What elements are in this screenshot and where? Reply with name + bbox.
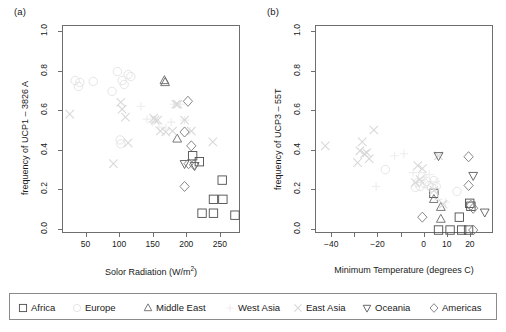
data-point-diamond (418, 212, 427, 222)
panel-b-x-axis-title: Minimum Temperature (degrees C) (305, 265, 503, 275)
data-point-cross (294, 304, 301, 311)
legend-item-label: Middle East (156, 302, 206, 313)
y-tick-label: 0.8 (39, 60, 49, 80)
legend-item-label: West Asia (238, 302, 280, 313)
panel-a-y-axis-title: frequency of UCP1 – 3826 A (20, 81, 30, 195)
x-tick-mark (119, 233, 120, 237)
x-tick-mark (331, 233, 332, 237)
data-point-square (19, 304, 26, 311)
data-point-square (198, 209, 206, 217)
x-tick-mark (401, 233, 402, 237)
panel-a-points-layer (63, 26, 241, 234)
data-point-cross (353, 158, 361, 166)
data-point-diamond (464, 180, 473, 190)
data-point-cross (414, 161, 422, 169)
cross-icon (293, 303, 302, 312)
data-point-cross (370, 126, 378, 134)
y-tick-label: 0.0 (292, 218, 302, 238)
legend-item-middle-east[interactable]: Middle East (143, 294, 206, 321)
data-point-triangle-down (469, 172, 478, 180)
panel-b-plot-area (315, 25, 493, 233)
data-point-square (455, 213, 463, 221)
y-tick-mark (311, 229, 315, 230)
data-point-diamond (180, 127, 189, 137)
data-point-square (231, 211, 239, 219)
data-point-circle (113, 67, 121, 75)
data-point-cross (358, 138, 366, 146)
data-point-cross (109, 159, 117, 167)
y-tick-label: 0.8 (292, 60, 302, 80)
data-point-square (218, 176, 226, 184)
data-point-circle (127, 72, 135, 80)
data-point-plus (372, 182, 380, 190)
x-tick-label: −20 (357, 239, 397, 249)
data-point-cross (321, 142, 329, 150)
data-point-triangle-up (144, 304, 152, 311)
x-tick-mark (153, 233, 154, 237)
x-tick-label: 20 (450, 239, 490, 249)
data-point-square (434, 226, 442, 234)
data-point-cross (418, 164, 426, 172)
x-tick-mark (377, 233, 378, 237)
data-point-diamond (180, 181, 189, 191)
legend-item-africa[interactable]: Africa (18, 294, 55, 321)
x-tick-mark (354, 233, 355, 237)
x-tick-mark (186, 233, 187, 237)
data-point-triangle-up (173, 134, 182, 142)
triangle-down-icon (362, 303, 371, 312)
data-point-triangle-up (436, 214, 445, 222)
legend-item-west-asia[interactable]: West Asia (225, 294, 280, 321)
y-tick-mark (311, 189, 315, 190)
data-point-triangle-up (429, 195, 438, 203)
legend-item-label: East Asia (306, 302, 346, 313)
data-point-cross (356, 147, 364, 155)
data-point-square (219, 195, 227, 203)
data-point-circle (453, 187, 461, 195)
data-point-triangle-down (363, 305, 371, 312)
x-tick-mark (86, 233, 87, 237)
legend-item-label: Europe (85, 302, 116, 313)
legend-item-americas[interactable]: Americas (429, 294, 482, 321)
y-tick-mark (58, 71, 62, 72)
data-point-plus (167, 118, 175, 126)
panel-a-x-axis-title: Solor Radiation (W/m2) (62, 265, 240, 277)
data-point-cross (209, 138, 217, 146)
panel-a: (a) 501001502002500.00.20.40.60.81.0 Sol… (0, 0, 253, 285)
data-point-diamond (430, 304, 438, 313)
scatter-figure: (a) 501001502002500.00.20.40.60.81.0 Sol… (0, 0, 506, 332)
legend-item-europe[interactable]: Europe (72, 294, 116, 321)
y-tick-label: 0.0 (39, 218, 49, 238)
y-tick-label: 0.6 (292, 99, 302, 119)
legend-item-oceania[interactable]: Oceania (362, 294, 410, 321)
panel-a-x-axis-title-tail: ) (194, 267, 197, 277)
y-tick-label: 0.4 (39, 139, 49, 159)
legend-item-east-asia[interactable]: East Asia (293, 294, 346, 321)
x-tick-mark (424, 233, 425, 237)
data-point-circle (124, 70, 132, 78)
legend: AfricaEuropeMiddle EastWest AsiaEast Asi… (9, 293, 497, 320)
diamond-icon (429, 303, 438, 312)
panel-b-points-layer (316, 26, 494, 234)
data-point-cross (66, 110, 74, 118)
panel-b-y-axis-title: frequency of UCP3 – 55T (273, 88, 283, 190)
y-tick-label: 0.2 (39, 178, 49, 198)
panel-a-plot-area (62, 25, 240, 233)
legend-item-label: Americas (442, 302, 482, 313)
y-tick-label: 0.4 (292, 139, 302, 159)
data-point-triangle-down (480, 209, 489, 217)
legend-item-label: Oceania (375, 302, 410, 313)
data-point-cross (121, 113, 129, 121)
x-tick-mark (470, 233, 471, 237)
y-tick-label: 0.2 (292, 178, 302, 198)
circle-icon (72, 303, 81, 312)
plus-icon (225, 303, 234, 312)
x-tick-mark (220, 233, 221, 237)
data-point-plus (400, 150, 408, 158)
y-tick-mark (311, 110, 315, 111)
y-tick-mark (58, 31, 62, 32)
y-tick-label: 1.0 (292, 20, 302, 40)
x-tick-label: 250 (200, 239, 240, 249)
y-tick-mark (58, 110, 62, 111)
data-point-cross (168, 127, 176, 135)
legend-item-label: Africa (31, 302, 55, 313)
